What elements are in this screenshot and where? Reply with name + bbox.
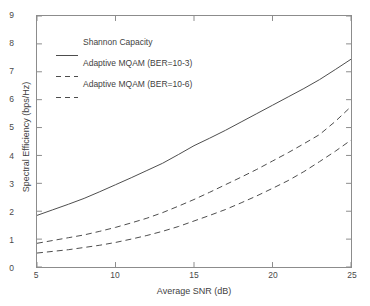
y-tick-label: 3 — [0, 180, 14, 189]
x-tick-label: 5 — [21, 271, 51, 280]
x-tick-label: 10 — [100, 271, 130, 280]
legend-item: Adaptive MQAM (BER=10-6) — [56, 78, 246, 99]
legend-item: Shannon Capacity — [56, 36, 246, 57]
legend-line-sample — [56, 64, 78, 67]
series-line — [37, 140, 351, 253]
x-tick-label: 20 — [258, 271, 288, 280]
y-tick-label: 0 — [0, 264, 14, 273]
y-tick-label: 7 — [0, 67, 14, 76]
legend-line-sample — [56, 85, 78, 88]
figure-canvas: 0123456789 510152025 Average SNR (dB) Sp… — [0, 0, 370, 306]
y-tick-label: 4 — [0, 152, 14, 161]
y-tick-label: 2 — [0, 208, 14, 217]
x-axis-title: Average SNR (dB) — [36, 286, 352, 296]
legend-label: Shannon Capacity — [83, 37, 152, 48]
legend: Shannon CapacityAdaptive MQAM (BER=10-3)… — [56, 36, 246, 99]
legend-item: Adaptive MQAM (BER=10-3) — [56, 57, 246, 78]
y-tick-label: 8 — [0, 39, 14, 48]
y-tick-label: 6 — [0, 95, 14, 104]
legend-label: Adaptive MQAM (BER=10-3) — [83, 58, 192, 69]
x-tick-label: 15 — [179, 271, 209, 280]
legend-label: Adaptive MQAM (BER=10-6) — [83, 79, 192, 90]
series-line — [37, 107, 351, 244]
y-tick-label: 5 — [0, 123, 14, 132]
y-axis-title: Spectral Efficiency (bps/Hz) — [21, 57, 31, 217]
legend-line-sample — [56, 43, 78, 46]
y-tick-label: 1 — [0, 236, 14, 245]
x-tick-label: 25 — [337, 271, 367, 280]
y-tick-label: 9 — [0, 11, 14, 20]
